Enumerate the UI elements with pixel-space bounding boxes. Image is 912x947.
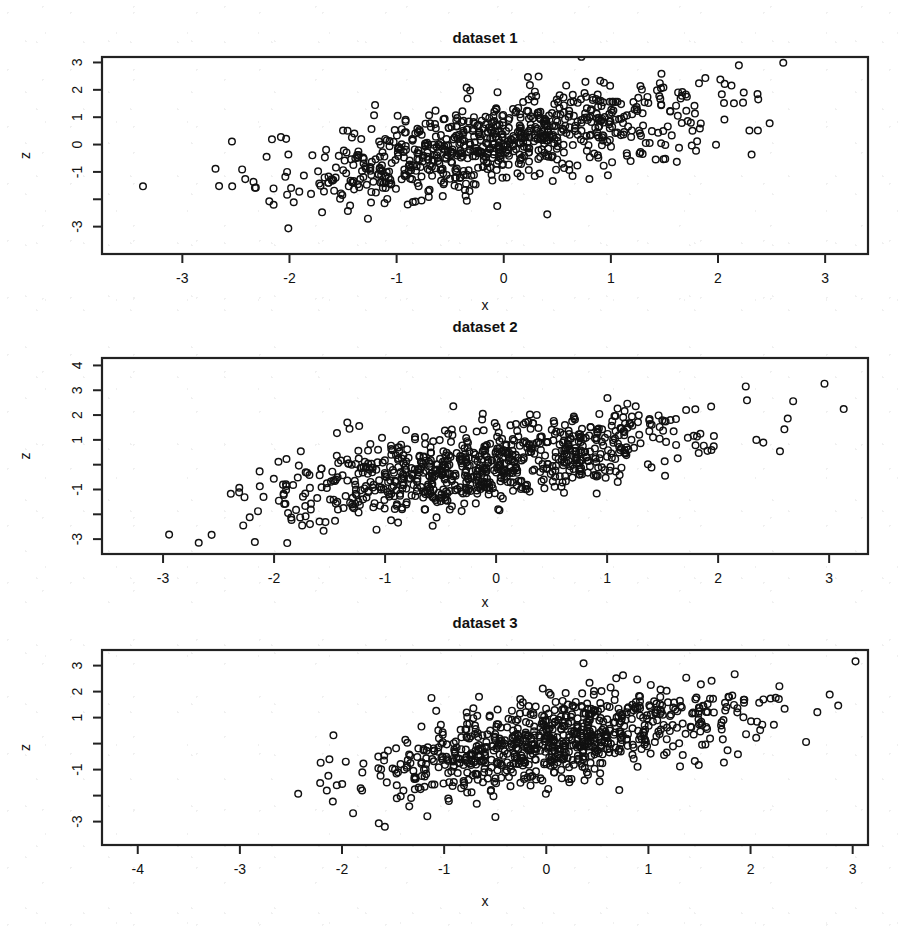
- y-tick-label: -3: [69, 220, 85, 233]
- y-tick-label: 1: [69, 113, 85, 121]
- x-tick-label: 0: [492, 570, 500, 586]
- x-axis-label: x: [482, 594, 489, 610]
- x-tick-label: 2: [747, 861, 755, 877]
- panel-dataset-3: dataset 3xz-4-3-2-10123-3-1123: [0, 612, 912, 947]
- x-tick-label: 2: [714, 270, 722, 286]
- y-tick-label: 0: [69, 140, 85, 148]
- y-tick-label: -1: [69, 763, 85, 776]
- x-tick-label: 0: [500, 270, 508, 286]
- x-tick-label: 0: [542, 861, 550, 877]
- data-points-group: [295, 612, 876, 830]
- x-tick-label: -4: [132, 861, 145, 877]
- x-tick-label: 1: [645, 861, 653, 877]
- y-axis-label: z: [17, 152, 33, 159]
- y-tick-label: 1: [69, 436, 85, 444]
- figure-canvas: dataset 1xz-3-2-10123-3-10123 dataset 2x…: [0, 0, 912, 947]
- x-tick-label: 3: [825, 570, 833, 586]
- x-tick-label: 1: [603, 570, 611, 586]
- x-tick-label: 1: [607, 270, 615, 286]
- plot-title: dataset 3: [452, 614, 517, 631]
- panel-dataset-2: dataset 2xz-3-2-10123-3-11234: [0, 320, 912, 620]
- x-axis-label: x: [482, 893, 489, 909]
- x-axis-label: x: [482, 297, 489, 313]
- x-tick-label: -2: [336, 861, 349, 877]
- scatter-plot-3: dataset 3xz-4-3-2-10123-3-1123: [0, 612, 912, 947]
- x-tick-label: -2: [268, 570, 281, 586]
- x-tick-label: 3: [849, 861, 857, 877]
- y-tick-label: -3: [69, 533, 85, 546]
- y-tick-label: -1: [69, 483, 85, 496]
- y-tick-label: 3: [69, 661, 85, 669]
- x-tick-label: -3: [234, 861, 247, 877]
- plot-title: dataset 2: [452, 320, 517, 335]
- x-tick-label: 2: [714, 570, 722, 586]
- panel-dataset-1: dataset 1xz-3-2-10123-3-10123: [0, 20, 912, 320]
- y-tick-label: 3: [69, 58, 85, 66]
- plot-title: dataset 1: [452, 29, 517, 46]
- y-axis-label: z: [17, 453, 33, 460]
- x-tick-label: -3: [157, 570, 170, 586]
- x-tick-label: 3: [821, 270, 829, 286]
- x-tick-label: -3: [176, 270, 189, 286]
- scatter-plot-2: dataset 2xz-3-2-10123-3-11234: [0, 320, 912, 620]
- data-points-group: [166, 380, 847, 546]
- y-tick-label: 3: [69, 386, 85, 394]
- y-tick-label: 2: [69, 86, 85, 94]
- x-tick-label: -1: [438, 861, 451, 877]
- y-tick-label: 4: [69, 361, 85, 369]
- y-tick-label: -3: [69, 815, 85, 828]
- x-tick-label: -2: [283, 270, 296, 286]
- plot-frame: [102, 358, 868, 554]
- x-tick-label: -1: [379, 570, 392, 586]
- y-tick-label: 2: [69, 411, 85, 419]
- y-tick-label: -1: [69, 165, 85, 178]
- x-tick-label: -1: [390, 270, 403, 286]
- scatter-plot-1: dataset 1xz-3-2-10123-3-10123: [0, 20, 912, 320]
- y-tick-label: 2: [69, 687, 85, 695]
- y-axis-label: z: [17, 744, 33, 751]
- y-tick-label: 1: [69, 713, 85, 721]
- data-points-group: [140, 54, 787, 232]
